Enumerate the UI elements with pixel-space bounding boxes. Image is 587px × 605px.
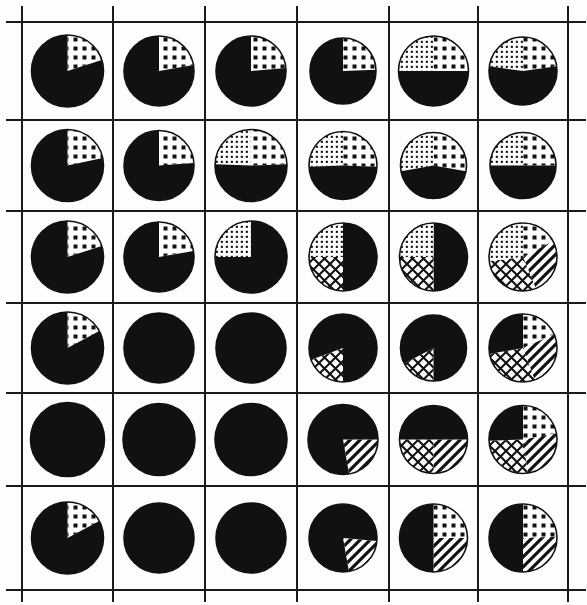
pie-slice-solid (400, 504, 434, 572)
pie-cell-r1-c4[interactable] (310, 38, 376, 104)
pie-slice-solid (399, 71, 469, 106)
pie-cell-r2-c4[interactable] (309, 131, 377, 199)
pie-slice-solid (401, 166, 466, 199)
pie-cell-r6-c4[interactable] (309, 504, 377, 572)
pie-cell-r4-c6[interactable] (489, 314, 557, 382)
pie-cell-r4-c2[interactable] (124, 313, 194, 383)
pie-cell-r4-c3[interactable] (216, 313, 286, 383)
pie-cell-r1-c1[interactable] (32, 35, 104, 107)
pie-slice-solid (489, 66, 557, 105)
pie-cell-r5-c5[interactable] (400, 406, 468, 474)
pie-slice-solid (490, 166, 556, 199)
pie-cell-r2-c6[interactable] (490, 133, 556, 199)
pie-cell-r1-c5[interactable] (399, 36, 469, 106)
pie-cell-r2-c5[interactable] (400, 133, 466, 199)
pie-cell-r2-c2[interactable] (124, 131, 194, 201)
pie-cell-r4-c5[interactable] (400, 315, 466, 381)
pie-slice-solid (489, 504, 523, 572)
pie-cell-r5-c2[interactable] (123, 403, 195, 475)
pie-cell-r5-c3[interactable] (215, 404, 287, 476)
pie-cell-r3-c1[interactable] (32, 221, 104, 293)
pie-matrix-canvas (0, 0, 587, 605)
pie-cell-r6-c6[interactable] (489, 504, 557, 572)
pie-cell-r3-c6[interactable] (489, 223, 557, 291)
pie-cell-r1-c2[interactable] (124, 36, 194, 106)
pie-cell-r6-c2[interactable] (124, 503, 194, 573)
pie-matrix-figure (0, 0, 587, 605)
pie-cell-r3-c3[interactable] (215, 221, 287, 293)
pie-slice-finedots (489, 223, 523, 261)
pie-cell-r6-c5[interactable] (400, 504, 468, 572)
pie-cell-r2-c3[interactable] (215, 130, 287, 202)
pie-cell-r5-c1[interactable] (31, 403, 105, 477)
pie-slice-bigdots (434, 133, 467, 172)
pie-slice-solid (309, 166, 377, 200)
pie-slice-solid (489, 314, 523, 354)
pie-cell-r4-c1[interactable] (32, 312, 104, 384)
pie-slice-solid (434, 223, 468, 291)
pie-cell-r6-c1[interactable] (32, 502, 104, 574)
pie-cell-r5-c4[interactable] (308, 405, 378, 475)
pie-cell-r5-c6[interactable] (489, 406, 557, 474)
pie-slice-cross (489, 440, 528, 474)
pie-cell-r3-c4[interactable] (309, 223, 377, 291)
pie-slice-stripe (523, 434, 557, 474)
pie-cell-r6-c3[interactable] (216, 503, 286, 573)
pie-cell-r3-c2[interactable] (124, 222, 194, 292)
pie-slice-solid (215, 164, 287, 201)
pie-cell-r4-c4[interactable] (309, 314, 377, 382)
pie-cell-r2-c1[interactable] (31, 130, 103, 202)
pie-cell-r3-c5[interactable] (400, 223, 468, 291)
pie-slice-finedots (400, 133, 433, 172)
pie-slice-solid (343, 223, 377, 291)
pie-cell-r1-c6[interactable] (489, 37, 557, 105)
pie-slice-solid (400, 406, 468, 440)
pie-cell-r1-c3[interactable] (216, 36, 286, 106)
